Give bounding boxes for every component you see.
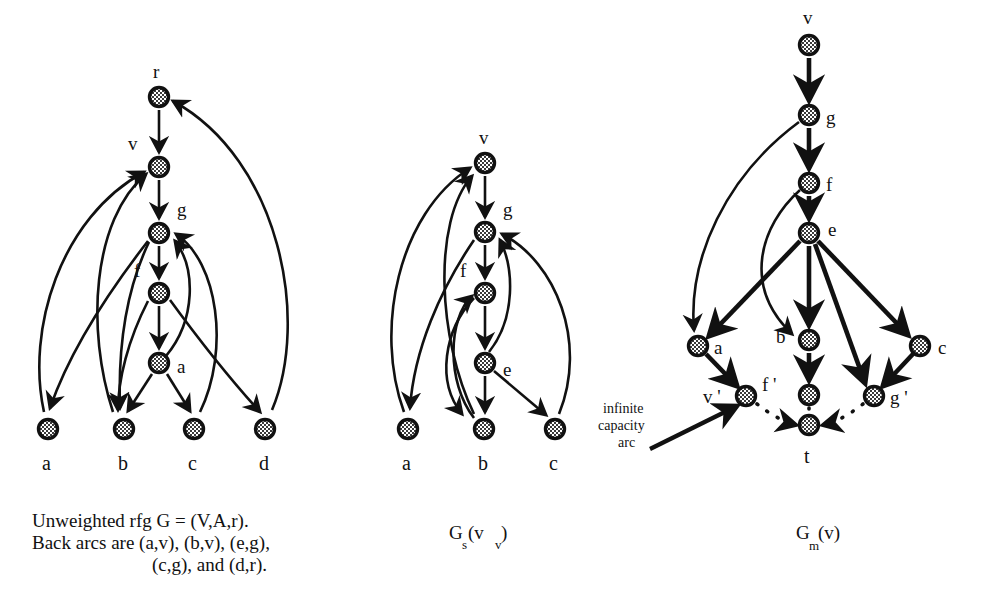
label-mid-leaf-c: c: [549, 452, 558, 474]
label-node-a-internal: a: [177, 356, 186, 377]
label-r-node-c: c: [938, 337, 946, 358]
label-r-node-fprime: f ': [762, 374, 777, 395]
graph-diagram-canvas: r v g f a a b c d Unweighted rfg G = (V,…: [0, 0, 988, 607]
caption-mid-sub-s: s: [462, 537, 467, 552]
node-r-v[interactable]: [800, 36, 819, 55]
label-mid-leaf-b: b: [478, 452, 488, 474]
label-r-node-b: b: [776, 326, 786, 347]
annotation-line-1: infinite: [603, 401, 643, 416]
label-node-v: v: [128, 133, 138, 154]
label-mid-leaf-a: a: [402, 452, 411, 474]
node-r-f[interactable]: [800, 174, 819, 193]
node-mid-e[interactable]: [476, 354, 495, 373]
node-a-internal[interactable]: [150, 354, 169, 373]
label-node-g: g: [177, 199, 187, 220]
caption-left-line-2: Back arcs are (a,v), (b,v), (e,g),: [32, 532, 270, 554]
node-r-g[interactable]: [800, 106, 819, 125]
node-mid-leaf-c[interactable]: [546, 420, 565, 439]
node-g[interactable]: [150, 224, 169, 243]
node-leaf-a[interactable]: [39, 420, 58, 439]
node-f[interactable]: [150, 284, 169, 303]
label-leaf-c: c: [188, 452, 197, 474]
label-mid-node-g: g: [503, 199, 513, 220]
label-leaf-a: a: [42, 452, 51, 474]
annotation-line-2: capacity: [598, 418, 645, 433]
node-r[interactable]: [150, 88, 169, 107]
node-r-t[interactable]: [800, 416, 819, 435]
annotation-pointer-arrow: [650, 406, 737, 449]
node-r-fprime[interactable]: [800, 386, 819, 405]
label-r-node-e: e: [828, 219, 836, 240]
node-mid-v[interactable]: [476, 154, 495, 173]
node-r-e[interactable]: [800, 224, 819, 243]
label-r-node-v: v: [803, 7, 813, 28]
label-r-node-f: f: [826, 174, 833, 195]
panel-right-graph: v g f e b f ' t a v ' c g ' infinite cap…: [598, 7, 946, 553]
arc-r-a-to-vprime: [706, 354, 737, 386]
node-r-b[interactable]: [800, 331, 819, 350]
label-node-r: r: [153, 61, 160, 82]
label-node-f: f: [134, 260, 141, 281]
caption-right-main: G: [796, 522, 810, 543]
label-r-node-t: t: [804, 445, 810, 467]
arc-mid-e-to-leaf-c: [494, 371, 546, 415]
caption-right-paren: (v): [818, 522, 840, 544]
back-arc-mid-b-f: [454, 296, 475, 418]
node-mid-g[interactable]: [476, 223, 495, 242]
annotation-line-3: arc: [618, 435, 635, 450]
back-arc-d-r: [173, 101, 288, 410]
label-leaf-b: b: [118, 452, 128, 474]
label-r-node-g: g: [826, 107, 836, 128]
arc-a-to-leaf-c: [167, 374, 190, 411]
node-r-c[interactable]: [911, 337, 930, 356]
figure-root: r v g f a a b c d Unweighted rfg G = (V,…: [0, 0, 988, 607]
back-arc-mid-b-v: [444, 176, 474, 414]
back-arc-a-g: [166, 241, 190, 356]
label-r-node-vprime: v ': [703, 386, 721, 407]
panel-left-graph: r v g f a a b c d Unweighted rfg G = (V,…: [32, 61, 288, 576]
arc-a-to-leaf-b: [128, 374, 152, 411]
label-mid-node-f: f: [460, 260, 467, 281]
node-mid-leaf-a[interactable]: [399, 420, 418, 439]
label-mid-node-v: v: [479, 127, 489, 148]
caption-mid-main: G: [449, 522, 463, 543]
label-mid-node-e: e: [503, 359, 511, 380]
node-r-a[interactable]: [689, 337, 708, 356]
node-leaf-c[interactable]: [185, 420, 204, 439]
caption-left-line-3: (c,g), and (d,r).: [152, 554, 267, 576]
caption-mid-paren-open: (v: [468, 522, 484, 544]
arc-f-to-leaf-b: [118, 301, 148, 410]
back-arc-c-g: [176, 234, 217, 412]
panel-middle-graph: v g f e a b c G s (v v ): [391, 127, 570, 552]
inf-arc-vprime-to-t: [757, 404, 796, 425]
node-r-vprime[interactable]: [737, 387, 756, 406]
label-r-node-a: a: [714, 337, 723, 358]
node-leaf-b[interactable]: [115, 420, 134, 439]
node-v[interactable]: [150, 158, 169, 177]
caption-left-line-1: Unweighted rfg G = (V,A,r).: [32, 510, 249, 532]
arc-r-e-to-a: [709, 241, 800, 336]
node-mid-f[interactable]: [476, 284, 495, 303]
node-leaf-d[interactable]: [256, 420, 275, 439]
label-r-node-gprime: g ': [890, 387, 908, 408]
label-leaf-d: d: [259, 452, 269, 474]
back-arc-a-v: [39, 172, 144, 412]
node-mid-leaf-b[interactable]: [475, 420, 494, 439]
node-r-gprime[interactable]: [865, 387, 884, 406]
arc-r-c-to-gprime: [883, 354, 913, 386]
caption-mid-paren-close: ): [501, 522, 507, 544]
inf-arc-gprime-to-t: [823, 404, 863, 425]
